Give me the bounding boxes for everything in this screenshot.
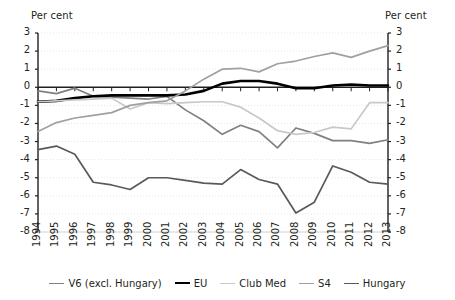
y-axis-tick-label: 0	[396, 80, 412, 91]
y-axis-tick-label: 2	[396, 44, 412, 55]
y-axis-tick-label: -1	[14, 98, 30, 109]
y-axis-tick-label: -5	[396, 171, 412, 182]
x-axis-tick-label: 2009	[307, 222, 318, 247]
x-axis-tick-label: 1997	[86, 222, 97, 247]
x-axis-tick-label: 2004	[215, 222, 226, 247]
y-axis-tick-label: -8	[14, 225, 30, 236]
x-axis-tick-label: 2007	[270, 222, 281, 247]
x-axis-tick-label: 1998	[105, 222, 116, 247]
series-line-hungary	[38, 146, 388, 213]
y-axis-tick-label: -2	[396, 116, 412, 127]
y-axis-tick-label: -6	[396, 189, 412, 200]
y-axis-tick-label: -6	[14, 189, 30, 200]
legend-item-label: EU	[194, 278, 208, 289]
legend-swatch-line-icon	[175, 282, 190, 284]
x-axis-tick-label: 1994	[31, 222, 42, 247]
legend-swatch-line-icon	[220, 283, 235, 284]
legend-swatch-line-icon	[299, 283, 314, 284]
legend-swatch-line-icon	[344, 283, 359, 284]
y-axis-tick-label: 3	[14, 26, 30, 37]
x-axis-tick-label: 1995	[49, 222, 60, 247]
y-axis-tick-label: 2	[14, 44, 30, 55]
x-axis-tick-label: 2008	[289, 222, 300, 247]
legend-item-label: Hungary	[363, 278, 406, 289]
legend-item[interactable]: Hungary	[344, 278, 406, 289]
y-axis-tick-label: -2	[14, 116, 30, 127]
y-axis-tick-label: -3	[14, 135, 30, 146]
x-axis-tick-label: 2006	[252, 222, 263, 247]
legend-item[interactable]: S4	[299, 278, 331, 289]
legend-item[interactable]: Club Med	[220, 278, 286, 289]
x-axis-tick-label: 2000	[142, 222, 153, 247]
legend-item-label: S4	[318, 278, 331, 289]
x-axis-tick-label: 2002	[178, 222, 189, 247]
y-axis-tick-label: 0	[14, 80, 30, 91]
x-axis-tick-label: 1999	[123, 222, 134, 247]
y-axis-tick-label: -5	[14, 171, 30, 182]
chart-container: Per cent Per cent 3210-1-2-3-4-5-6-7-8 3…	[0, 0, 455, 300]
x-axis-tick-label: 2001	[160, 222, 171, 247]
legend-swatch-line-icon	[49, 283, 64, 284]
line-chart-plot	[0, 0, 455, 300]
y-axis-tick-label: 1	[396, 62, 412, 73]
y-axis-tick-label: -8	[396, 225, 412, 236]
x-axis-tick-label: 2003	[197, 222, 208, 247]
legend-item-label: Club Med	[239, 278, 286, 289]
legend-item[interactable]: V6 (excl. Hungary)	[49, 278, 161, 289]
x-axis-tick-label: 2011	[344, 222, 355, 247]
legend-item[interactable]: EU	[175, 278, 208, 289]
chart-legend: V6 (excl. Hungary)EUClub MedS4Hungary	[0, 272, 455, 294]
x-axis-tick-label: 2010	[326, 222, 337, 247]
y-axis-tick-label: 1	[14, 62, 30, 73]
x-axis-tick-label: 1996	[68, 222, 79, 247]
x-axis-tick-label: 2013	[381, 222, 392, 247]
y-axis-tick-label: 3	[396, 26, 412, 37]
y-axis-tick-label: -4	[396, 153, 412, 164]
y-axis-tick-label: -7	[396, 207, 412, 218]
y-axis-tick-label: -7	[14, 207, 30, 218]
x-axis-tick-label: 2012	[363, 222, 374, 247]
x-axis-tick-label: 2005	[234, 222, 245, 247]
y-axis-tick-label: -4	[14, 153, 30, 164]
y-axis-tick-label: -3	[396, 135, 412, 146]
y-axis-tick-label: -1	[396, 98, 412, 109]
legend-item-label: V6 (excl. Hungary)	[68, 278, 161, 289]
